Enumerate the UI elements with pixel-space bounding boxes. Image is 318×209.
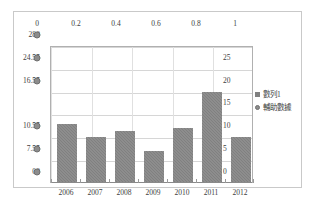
scatter-marker: [34, 169, 41, 176]
scatter-marker: [34, 78, 41, 85]
scatter-marker: [34, 32, 41, 39]
chart-screenshot: 0 0.2 0.4 0.6 0.8 1 28 24.5 16.5 10.5 7.…: [0, 0, 318, 209]
legend-item-series1[interactable]: 數列1: [255, 88, 291, 101]
legend-label-auxiliary: 輔助數據: [263, 101, 291, 114]
category-tick: [196, 179, 197, 183]
bar-2011: [202, 92, 222, 183]
plot-area: [50, 46, 253, 183]
category-tick: [253, 179, 254, 183]
category-tick: [80, 179, 81, 183]
bar-2009: [144, 151, 164, 183]
gridline-30: [51, 47, 252, 48]
square-marker-icon: [255, 92, 260, 97]
chart-legend: 數列1 輔助數據: [255, 88, 291, 114]
bar-2006: [57, 124, 77, 183]
category-label-2010: 2010: [175, 189, 190, 197]
category-label-2006: 2006: [59, 189, 74, 197]
category-label-2011: 2011: [204, 189, 219, 197]
top-axis-tick-0: 0: [35, 20, 39, 28]
gridline-25: [51, 70, 252, 71]
top-axis-tick-2: 0.4: [111, 20, 120, 28]
bar-2007: [86, 137, 106, 183]
circle-marker-icon: [255, 105, 260, 110]
legend-label-series1: 數列1: [263, 88, 281, 101]
category-label-2012: 2012: [233, 189, 248, 197]
top-axis-tick-4: 0.8: [191, 20, 200, 28]
bar-2012: [231, 137, 251, 183]
top-axis-tick-5: 1: [233, 20, 237, 28]
bar-2010: [173, 128, 193, 183]
category-tick: [109, 179, 110, 183]
plot-inner: [51, 47, 252, 183]
scatter-marker: [34, 146, 41, 153]
category-tick: [51, 179, 52, 183]
top-axis-tick-3: 0.6: [151, 20, 160, 28]
scatter-marker: [34, 123, 41, 130]
top-axis-tick-1: 0.2: [71, 20, 80, 28]
category-label-2007: 2007: [88, 189, 103, 197]
category-tick: [138, 179, 139, 183]
category-tick: [225, 179, 226, 183]
category-label-2009: 2009: [146, 189, 161, 197]
bar-2008: [115, 131, 135, 184]
axis-baseline: [51, 182, 252, 183]
vertical-gridline: [51, 47, 52, 183]
category-tick: [167, 179, 168, 183]
category-label-2008: 2008: [117, 189, 132, 197]
scatter-marker: [34, 55, 41, 62]
legend-item-auxiliary[interactable]: 輔助數據: [255, 101, 291, 114]
